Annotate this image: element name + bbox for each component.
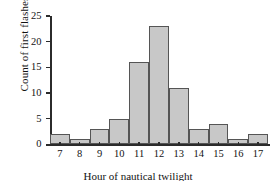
x-tick-label: 14 <box>193 149 204 160</box>
x-tick <box>158 142 159 147</box>
y-tick: 25 <box>46 15 51 16</box>
bar <box>129 62 149 144</box>
x-tick <box>99 142 100 147</box>
x-tick-label: 10 <box>114 149 125 160</box>
x-tick-label: 8 <box>77 149 82 160</box>
y-tick: 20 <box>46 41 51 42</box>
x-tick-label: 12 <box>154 149 165 160</box>
x-tick-label: 15 <box>213 149 224 160</box>
x-tick <box>138 142 139 147</box>
y-tick-label: 25 <box>31 11 42 22</box>
y-tick: 10 <box>46 92 51 93</box>
x-tick-label: 11 <box>134 149 144 160</box>
y-tick: 5 <box>46 118 51 119</box>
x-tick-label: 9 <box>97 149 102 160</box>
y-tick-label: 5 <box>36 113 41 124</box>
y-tick-label: 20 <box>31 36 42 47</box>
y-axis-line <box>50 16 52 146</box>
y-axis-label: Count of first flashes <box>18 0 30 114</box>
x-tick-label: 16 <box>233 149 244 160</box>
x-tick <box>178 142 179 147</box>
bar <box>149 26 169 144</box>
x-tick <box>257 142 258 147</box>
y-tick: 15 <box>46 67 51 68</box>
x-axis-label: Hour of nautical twilight <box>0 170 276 181</box>
x-tick-label: 7 <box>57 149 62 160</box>
x-tick <box>218 142 219 147</box>
x-tick <box>238 142 239 147</box>
histogram-figure: Count of first flashes 0510152025 789101… <box>0 0 276 181</box>
y-tick-label: 15 <box>31 62 42 73</box>
x-tick-label: 17 <box>253 149 264 160</box>
x-tick <box>79 142 80 147</box>
y-tick-label: 0 <box>36 139 41 150</box>
y-tick-label: 10 <box>31 88 42 99</box>
x-tick <box>119 142 120 147</box>
x-tick <box>59 142 60 147</box>
x-tick <box>198 142 199 147</box>
bar <box>169 88 189 144</box>
plot-area: 0510152025 7891011121314151617 <box>50 16 268 146</box>
x-tick-label: 13 <box>174 149 185 160</box>
